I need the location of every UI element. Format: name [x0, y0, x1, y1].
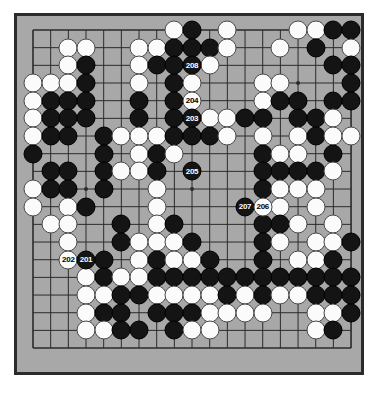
stone-white — [271, 197, 290, 216]
stone-black — [183, 268, 202, 287]
stone-black — [324, 321, 343, 340]
stone-black — [183, 303, 202, 322]
stone-white — [289, 180, 308, 199]
stone-black — [342, 303, 361, 322]
stone-move-201: 201 — [77, 250, 96, 269]
stone-white — [147, 127, 166, 146]
stone-white — [24, 91, 43, 110]
stone-black — [218, 286, 237, 305]
stone-black — [183, 233, 202, 252]
stone-black — [77, 91, 96, 110]
move-number-label: 205 — [186, 167, 198, 175]
stone-black — [324, 144, 343, 163]
stone-black — [147, 268, 166, 287]
stone-white — [112, 127, 131, 146]
stone-black — [271, 162, 290, 181]
stone-white — [271, 144, 290, 163]
stone-black — [147, 144, 166, 163]
stone-white — [342, 127, 361, 146]
stone-black — [59, 180, 78, 199]
stone-black — [306, 162, 325, 181]
stone-white — [306, 21, 325, 40]
stone-black — [253, 162, 272, 181]
stone-white — [59, 233, 78, 252]
stone-white — [130, 144, 149, 163]
stone-white — [253, 74, 272, 93]
stone-black — [253, 268, 272, 287]
stone-black — [306, 286, 325, 305]
stone-white — [41, 74, 60, 93]
stone-white — [94, 321, 113, 340]
go-board[interactable]: 208204203205207206202201 — [14, 13, 364, 375]
stone-black — [306, 268, 325, 287]
stone-white — [112, 162, 131, 181]
stone-black — [94, 250, 113, 269]
stone-white — [306, 303, 325, 322]
stone-white — [183, 74, 202, 93]
stone-black — [77, 56, 96, 75]
stone-black — [342, 268, 361, 287]
stone-white — [306, 321, 325, 340]
stone-white — [271, 74, 290, 93]
stone-black — [236, 109, 255, 128]
stone-white — [59, 74, 78, 93]
stone-white — [165, 286, 184, 305]
stone-black — [165, 38, 184, 57]
stone-black — [236, 268, 255, 287]
stone-white — [165, 21, 184, 40]
stone-white — [306, 197, 325, 216]
stone-white — [218, 127, 237, 146]
stone-black — [253, 144, 272, 163]
stone-white — [200, 109, 219, 128]
stone-black — [200, 268, 219, 287]
stone-white — [130, 38, 149, 57]
stone-black — [324, 250, 343, 269]
stone-black — [147, 303, 166, 322]
stone-black — [271, 268, 290, 287]
stone-move-203: 203 — [183, 109, 202, 128]
stone-black — [289, 91, 308, 110]
stone-black — [289, 268, 308, 287]
stone-white — [77, 303, 96, 322]
stone-black — [77, 74, 96, 93]
stone-black — [59, 127, 78, 146]
stone-black — [165, 303, 184, 322]
stone-black — [324, 21, 343, 40]
stone-black — [324, 91, 343, 110]
stone-white — [130, 233, 149, 252]
stone-black — [112, 321, 131, 340]
stone-move-202: 202 — [59, 250, 78, 269]
stone-black — [41, 180, 60, 199]
stone-white — [253, 91, 272, 110]
stone-black — [271, 91, 290, 110]
move-number-label: 207 — [239, 203, 251, 211]
stone-white — [324, 162, 343, 181]
stone-black — [342, 233, 361, 252]
stone-white — [130, 74, 149, 93]
stone-white — [324, 127, 343, 146]
stone-move-207: 207 — [236, 197, 255, 216]
stone-black — [218, 268, 237, 287]
stone-black — [165, 91, 184, 110]
stone-black — [77, 109, 96, 128]
stone-white — [324, 215, 343, 234]
stone-black — [183, 127, 202, 146]
stone-white — [218, 21, 237, 40]
stone-move-206: 206 — [253, 197, 272, 216]
stone-black — [41, 91, 60, 110]
stone-black — [94, 127, 113, 146]
stone-black — [306, 38, 325, 57]
stone-white — [236, 286, 255, 305]
stone-black — [342, 56, 361, 75]
stone-black — [324, 286, 343, 305]
stone-black — [112, 286, 131, 305]
stone-black — [130, 286, 149, 305]
stone-black — [147, 162, 166, 181]
stone-white — [271, 180, 290, 199]
stone-black — [253, 286, 272, 305]
stone-black — [165, 109, 184, 128]
move-number-label: 208 — [186, 61, 198, 69]
stone-black — [112, 233, 131, 252]
stone-white — [218, 38, 237, 57]
stone-black — [41, 127, 60, 146]
